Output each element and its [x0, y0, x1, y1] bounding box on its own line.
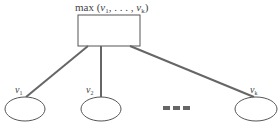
edge-k — [130, 46, 254, 97]
edge-1 — [26, 46, 88, 97]
game-tree-diagram: max (v1, . . . , vk) v1 v2 vk — [0, 0, 280, 129]
max-node-box — [78, 15, 140, 46]
child-node-2 — [81, 97, 121, 121]
child-node-k — [235, 97, 277, 121]
child-label-1: v1 — [15, 84, 22, 96]
ellipsis-dots — [163, 106, 190, 110]
child-node-1 — [5, 97, 45, 121]
child-label-k: vk — [250, 84, 257, 96]
root-label: max (v1, . . . , vk) — [75, 1, 149, 15]
child-label-2: v2 — [86, 84, 93, 96]
